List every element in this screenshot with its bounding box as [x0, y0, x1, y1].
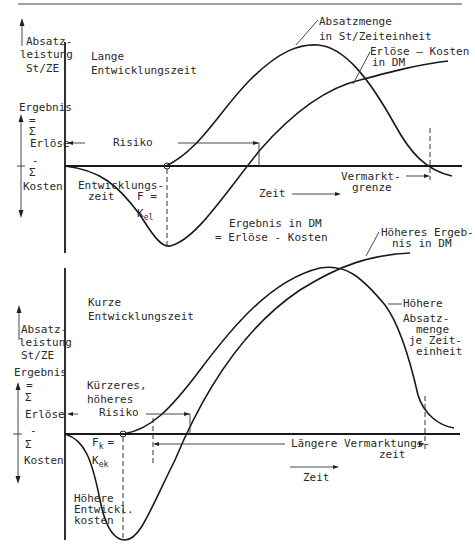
- top-kosten-label: Kosten: [23, 180, 63, 193]
- bottom-f-label: Fk=: [92, 436, 114, 451]
- top-ergebnis-label-line2: in DM: [372, 56, 405, 69]
- bottom-result-down-arrow-icon: [16, 476, 21, 484]
- bottom-risk-line3: Risiko: [99, 406, 139, 419]
- top-k-label: Kel: [137, 207, 153, 222]
- bottom-ergebnis-label-line2: nis in DM: [392, 237, 452, 250]
- bottom-risk-arrow-icon: [184, 412, 190, 416]
- bottom-y-label-line1: Absatz-: [21, 323, 67, 336]
- bottom-cost-line3: kosten: [74, 514, 114, 527]
- top-time-label: Zeit: [259, 187, 286, 200]
- top-risk-arrow-icon: [253, 141, 259, 145]
- product-development-diagram: Absatz- leistung St/ZE Ergebnis = Σ Erlö…: [0, 0, 475, 553]
- top-y-label-line1: Absatz-: [26, 35, 72, 48]
- top-f-label: F =: [137, 190, 157, 203]
- bottom-sigma-2: Σ: [25, 438, 32, 451]
- bottom-y-label-ergebnis: Ergebnis: [14, 366, 67, 379]
- top-erloese-label: Erlöse: [30, 137, 70, 150]
- top-up-arrow-icon: [20, 18, 25, 26]
- bottom-absatz-label-line5: einheit: [416, 345, 462, 358]
- bottom-time-label: Zeit: [303, 471, 330, 484]
- top-risk-label: Risiko: [113, 136, 153, 149]
- top-y-label-ergebnis: Ergebnis: [19, 101, 72, 114]
- bottom-market-time-line1: Längere Vermarktungs-: [291, 437, 430, 450]
- top-absatz-leader: [296, 20, 318, 45]
- top-market-limit-arrow-icon: [424, 174, 430, 178]
- bottom-market-arrow-left-icon: [153, 442, 159, 446]
- bottom-result-up-arrow-icon: [16, 382, 21, 390]
- bottom-chart: Absatz- leistung St/ZE Ergebnis = Σ Erlö…: [13, 226, 474, 540]
- bottom-up-arrow-icon: [17, 305, 22, 313]
- top-title-line1: Lange: [91, 50, 124, 63]
- top-result-label-line2: = Erlöse - Kosten: [215, 231, 328, 244]
- bottom-market-time-line2: zeit: [379, 448, 406, 461]
- top-result-label-line1: Ergebnis in DM: [229, 217, 322, 230]
- top-absatz-label-line2: in St/Zeiteinheit: [319, 30, 432, 43]
- top-title-line2: Entwicklungszeit: [91, 64, 197, 77]
- top-result-up-arrow-icon: [19, 114, 24, 122]
- bottom-risk-line2: höheres: [87, 393, 133, 406]
- bottom-minus-sign: -: [30, 424, 37, 437]
- bottom-title-line2: Entwicklungszeit: [88, 310, 194, 323]
- bottom-absatz-curve: [123, 267, 454, 434]
- bottom-sigma-1: Σ: [25, 391, 32, 404]
- bottom-kosten-label: Kosten: [24, 454, 64, 467]
- top-sigma-2: Σ: [29, 166, 36, 179]
- top-dev-time-line2: zeit: [88, 190, 115, 203]
- top-absatz-label-line1: Absatzmenge: [319, 15, 392, 28]
- top-result-down-arrow-icon: [19, 210, 24, 218]
- bottom-time-arrow-icon: [333, 465, 339, 469]
- bottom-y-label-line2: leistung: [19, 336, 72, 349]
- bottom-erloese-label: Erlöse: [25, 408, 65, 421]
- bottom-y-label-line3: St/ZE: [21, 349, 54, 362]
- bottom-absatz-label-line1: Höhere: [403, 297, 443, 310]
- bottom-erloese-arrow-icon: [67, 412, 73, 416]
- top-y-label-line2: leistung: [20, 48, 73, 61]
- top-y-label-line3: St/ZE: [26, 62, 59, 75]
- top-chart: Absatz- leistung St/ZE Ergebnis = Σ Erlö…: [17, 15, 469, 253]
- bottom-title-line1: Kurze: [88, 296, 121, 309]
- bottom-k-label: Kek: [92, 454, 108, 469]
- bottom-ergebnis-leader: [366, 232, 379, 256]
- top-market-limit-line2: grenze: [352, 181, 392, 194]
- bottom-risk-line1: Kürzeres,: [87, 379, 147, 392]
- top-absatz-curve: [166, 45, 452, 176]
- top-time-arrow-icon: [335, 192, 341, 196]
